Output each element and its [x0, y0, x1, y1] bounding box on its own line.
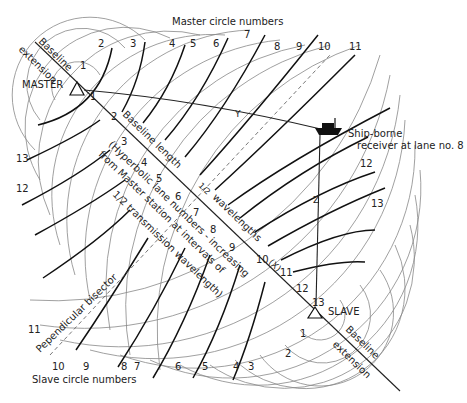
hyperbolic-note-line2: from Master station at intervals of: [97, 149, 228, 276]
right-number: 13: [371, 198, 384, 209]
lane-number: 5: [156, 173, 162, 184]
master-number: 7: [244, 29, 250, 40]
lane-number: 2: [111, 111, 117, 122]
slave-number: 7: [134, 361, 140, 372]
master-number: 6: [213, 38, 219, 49]
right-number: 12: [360, 158, 373, 169]
lane-number: 4: [141, 157, 147, 168]
lane-number: 6: [175, 191, 181, 202]
ship-label-1: Ship-borne: [348, 128, 402, 139]
lane-number: 12: [296, 283, 309, 294]
point-z: Z: [313, 195, 319, 205]
lane-number: 8: [210, 224, 216, 235]
slave-number: 3: [248, 361, 254, 372]
master-number-row: 1 2 3 4 5 6 7 8 9 10 11: [80, 29, 362, 71]
slave-number: 1: [300, 328, 306, 339]
master-label: MASTER: [22, 79, 63, 90]
slave-number: 5: [202, 361, 208, 372]
slave-number: 2: [285, 348, 291, 359]
left-number: 11: [28, 324, 41, 335]
lane-number: 11: [280, 267, 293, 278]
master-number: 8: [274, 41, 280, 52]
left-number: 12: [16, 183, 29, 194]
master-number: 10: [318, 41, 331, 52]
slave-number: 6: [175, 361, 181, 372]
master-number: 11: [349, 41, 362, 52]
lane-number: 3: [121, 136, 127, 147]
master-number: 1: [80, 60, 86, 71]
slave-number: 4: [233, 361, 239, 372]
slave-number: 10: [52, 361, 65, 372]
perpendicular-bisector-label: Pependicular bisector: [34, 271, 120, 355]
point-y: Y: [234, 109, 241, 119]
left-number: 13: [16, 153, 29, 164]
ship-label-2: receiver at lane no. 8: [357, 140, 464, 151]
slave-label: SLAVE: [328, 306, 360, 317]
lane-number: 1: [90, 91, 96, 102]
lane-number: 9: [229, 242, 235, 253]
slave-circle-numbers-label: Slave circle numbers: [32, 374, 137, 385]
slave-number: 8: [121, 361, 127, 372]
master-circle-numbers-label: Master circle numbers: [172, 16, 283, 27]
master-number: 3: [130, 38, 136, 49]
master-number: 9: [296, 41, 302, 52]
master-number: 4: [169, 38, 175, 49]
hyperbolic-navigation-diagram: Master circle numbers Slave circle numbe…: [0, 0, 467, 403]
ship-icon: [315, 118, 342, 135]
diagram-canvas: Master circle numbers Slave circle numbe…: [0, 0, 467, 403]
lane-number: 10: [256, 254, 269, 265]
lane-number: 7: [193, 207, 199, 218]
slave-number: 9: [83, 361, 89, 372]
lane-number: 13: [312, 297, 325, 308]
slave-station-icon: [308, 307, 322, 318]
master-station-icon: [70, 82, 84, 95]
master-number: 2: [98, 38, 104, 49]
master-number: 5: [190, 38, 196, 49]
